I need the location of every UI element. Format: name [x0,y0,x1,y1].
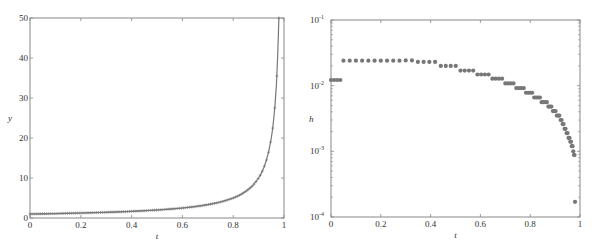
x-tick-label: 0.2 [75,220,86,230]
data-point [471,68,475,72]
data-point [559,118,563,122]
plus-marker [211,202,214,205]
data-point [567,136,571,140]
y-tick-label: 10 [19,173,29,183]
data-point [500,77,504,81]
data-point [348,59,352,63]
data-point [404,58,408,62]
data-point [563,127,567,131]
left-plot-ticks: 00.20.40.60.8101020304050 [19,13,286,230]
x-tick-label: 1 [282,220,287,230]
x-tick-label: 0 [329,219,334,229]
data-point [572,153,576,157]
data-point [397,59,401,63]
y-tick-label: 10-3 [310,145,324,156]
y-tick-label: 10-4 [310,211,324,222]
data-point [354,59,358,63]
x-tick-label: 0 [28,220,33,230]
data-point [341,59,345,63]
data-point [530,91,534,95]
x-tick-label: 0.2 [375,219,386,229]
data-point [416,60,420,64]
data-line [30,18,279,214]
data-point [463,68,467,72]
plus-marker [205,203,208,206]
data-point [366,59,370,63]
data-point [553,109,557,113]
left-plot-curve [29,17,281,216]
y-tick-label: 50 [19,13,29,23]
plus-marker [273,106,276,109]
right-plot-frame [331,20,580,217]
x-tick-label: 0.4 [425,219,437,229]
plus-marker [269,141,272,144]
data-point [433,60,437,64]
data-point [449,64,453,68]
y-tick-label: 10-2 [310,80,324,91]
data-point [475,72,479,76]
y-tick-label: 30 [19,93,29,103]
plus-marker [209,203,212,206]
data-point [422,60,426,64]
data-point [545,100,549,104]
plus-marker [277,17,280,20]
x-tick-label: 0.4 [126,220,138,230]
data-point [483,72,487,76]
data-point [385,59,389,63]
plus-marker [275,74,278,77]
data-point [338,78,342,82]
data-point [561,122,565,126]
plus-marker [213,202,216,205]
data-point [570,144,574,148]
x-tick-label: 0.8 [525,219,537,229]
data-point [467,68,471,72]
data-point [379,59,383,63]
data-point [565,131,569,135]
data-point [410,58,414,62]
x-tick-label: 0.8 [228,220,240,230]
y-tick-label: 0 [24,213,29,223]
data-point [573,200,577,204]
figure: 00.20.40.60.8101020304050 t y 00.20.40.6… [0,0,599,247]
x-tick-label: 0.6 [475,219,487,229]
right-plot-h-vs-t: 00.20.40.60.8110-410-310-210-1 t h [309,14,582,240]
right-plot-ticks: 00.20.40.60.8110-410-310-210-1 [310,14,582,229]
data-point [479,72,483,76]
plus-marker [219,200,222,203]
data-point [360,59,364,63]
left-x-axis-label: t [156,231,159,241]
x-tick-label: 0.6 [177,220,189,230]
data-point [571,149,575,153]
y-tick-label: 20 [19,133,29,143]
data-point [458,68,462,72]
data-point [427,60,431,64]
data-point [569,140,573,144]
plus-marker [207,203,210,206]
right-plot-markers [329,58,577,204]
data-point [557,114,561,118]
left-plot-y-vs-t: 00.20.40.60.8101020304050 t y [7,13,286,241]
plus-marker [271,127,274,130]
y-tick-label: 10-1 [310,14,324,25]
left-plot-frame [30,18,284,218]
right-y-axis-label: h [309,114,314,124]
plus-marker [215,201,218,204]
data-point [454,64,458,68]
data-point [511,81,515,85]
data-point [549,104,553,108]
left-y-axis-label: y [7,113,12,123]
data-point [522,86,526,90]
right-x-axis-label: t [454,230,457,240]
plus-marker [265,159,268,162]
data-point [538,95,542,99]
data-point [487,72,491,76]
data-point [439,64,443,68]
y-tick-label: 40 [19,53,29,63]
data-point [444,64,448,68]
x-tick-label: 1 [578,219,583,229]
plus-marker [217,201,220,204]
data-point [372,59,376,63]
plus-marker [267,151,270,154]
data-point [391,59,395,63]
